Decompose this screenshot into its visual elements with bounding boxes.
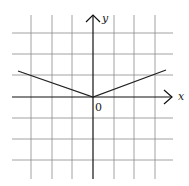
- x-axis-label: x: [178, 90, 185, 103]
- coordinate-plane: y x 0: [0, 0, 189, 186]
- origin-label: 0: [95, 101, 102, 114]
- y-axis-label: y: [101, 12, 109, 25]
- v-shaped-graph: [18, 70, 166, 97]
